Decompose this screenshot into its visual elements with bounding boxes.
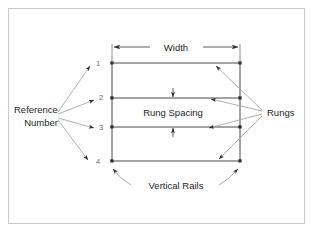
joint-dot	[110, 96, 113, 99]
joint-dot	[238, 159, 241, 162]
reference-number-label-line1: Reference	[14, 104, 58, 115]
joint-dot	[238, 125, 241, 128]
reference-number-label-line2: Number	[24, 117, 58, 128]
reference-number-3: 3	[99, 123, 103, 132]
rungs-callout: Rungs	[209, 66, 295, 159]
rung-spacing-label: Rung Spacing	[143, 107, 203, 118]
width-dimension: Width	[112, 42, 240, 64]
joint-dot	[110, 159, 113, 162]
rungs-leader-1	[216, 66, 262, 110]
reference-leader-4	[58, 120, 88, 160]
joint-dot	[110, 125, 113, 128]
reference-leader-3	[58, 118, 94, 128]
reference-leader-1	[58, 66, 90, 112]
joint-dot	[238, 96, 241, 99]
reference-number-callout: Reference Number 1 2 3 4	[14, 59, 103, 166]
ladder-diagram-canvas: Width Rung Spacing Reference Number 1 2 …	[0, 0, 314, 235]
width-label: Width	[164, 42, 188, 53]
diagram-page: Width Rung Spacing Reference Number 1 2 …	[0, 0, 314, 235]
reference-number-1: 1	[96, 59, 100, 68]
rungs-leader-2	[211, 99, 262, 111]
rungs-label: Rungs	[267, 107, 295, 118]
vertical-rails-leader-right	[219, 169, 238, 185]
vertical-rails-leader-left	[113, 169, 131, 185]
reference-number-4: 4	[96, 157, 100, 166]
reference-leader-2	[58, 100, 94, 114]
vertical-rails-label: Vertical Rails	[149, 180, 204, 191]
rungs-leader-3	[209, 114, 262, 128]
reference-number-2: 2	[99, 93, 103, 102]
vertical-rails-callout: Vertical Rails	[113, 169, 238, 191]
rung-spacing-dimension: Rung Spacing	[143, 88, 203, 137]
